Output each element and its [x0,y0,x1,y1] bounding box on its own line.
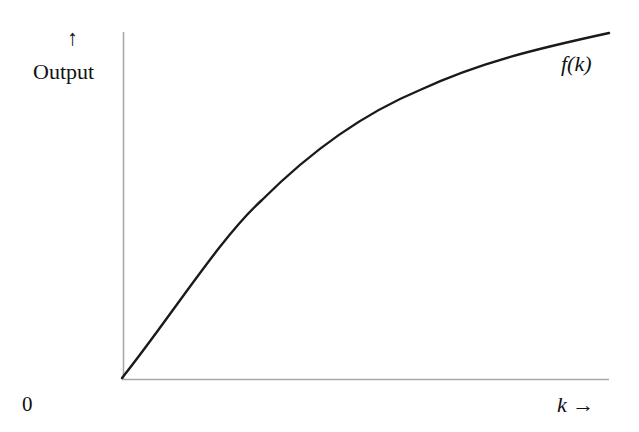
x-axis-arrow: → [572,392,594,417]
curve-label: f(k) [561,53,592,75]
y-axis-label: Output [33,61,94,83]
x-variable: k [557,392,567,417]
production-function-diagram [0,0,639,432]
y-axis-arrow: ↑ [67,27,78,49]
origin-label: 0 [22,394,33,415]
curve-f-of-k [122,33,609,378]
x-axis-label: k → [557,394,594,416]
